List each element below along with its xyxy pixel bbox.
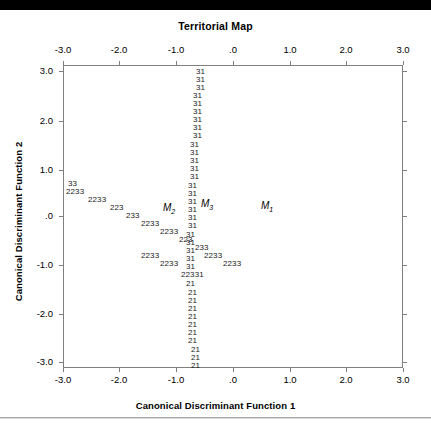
y-tick-left bbox=[59, 265, 63, 266]
territorial-symbol-row: 223 bbox=[110, 204, 124, 212]
y-tick-right bbox=[403, 265, 407, 266]
territorial-symbol-row: 2233 bbox=[223, 260, 241, 268]
y-tick-label: 1.0 bbox=[23, 164, 53, 175]
x-tick-label: -3.0 bbox=[43, 44, 83, 55]
x-tick-top bbox=[63, 61, 64, 65]
group-centroid-marker: M1 bbox=[261, 201, 273, 215]
x-tick-top bbox=[403, 61, 404, 65]
y-tick-label: 3.0 bbox=[23, 65, 53, 76]
territorial-symbol-row: 2233 bbox=[141, 252, 159, 260]
y-tick-right bbox=[403, 216, 407, 217]
x-tick-top bbox=[176, 61, 177, 65]
y-tick-label: -2.0 bbox=[23, 308, 53, 319]
x-tick-label: .0 bbox=[213, 374, 253, 385]
y-tick-left bbox=[59, 314, 63, 315]
y-tick-right bbox=[403, 362, 407, 363]
x-tick-bottom bbox=[63, 368, 64, 372]
x-tick-top bbox=[290, 61, 291, 65]
x-tick-bottom bbox=[176, 368, 177, 372]
x-tick-label: 3.0 bbox=[383, 44, 423, 55]
y-axis-title: Canonical Discriminant Function 2 bbox=[13, 122, 24, 322]
territorial-symbol-row: 31 bbox=[193, 132, 202, 140]
x-tick-label: -3.0 bbox=[43, 374, 83, 385]
x-tick-label: -1.0 bbox=[156, 44, 196, 55]
territorial-symbol-row: 2233 bbox=[160, 228, 178, 236]
territorial-symbol-row: 2233 bbox=[160, 260, 178, 268]
territorial-symbol-row: 22331 bbox=[181, 271, 204, 279]
bottom-rule-secondary bbox=[0, 418, 431, 419]
x-tick-label: -1.0 bbox=[156, 374, 196, 385]
y-tick-left bbox=[59, 71, 63, 72]
territorial-symbol-row: 2233 bbox=[88, 196, 106, 204]
territorial-map-figure: Territorial Map -3.0-3.0-2.0-2.0-1.0-1.0… bbox=[0, 0, 431, 434]
territorial-symbol-row: 21 bbox=[191, 362, 200, 370]
territorial-symbol-row: 2233 bbox=[141, 220, 159, 228]
x-tick-label: 1.0 bbox=[270, 44, 310, 55]
y-tick-label: -3.0 bbox=[23, 356, 53, 367]
x-tick-label: 2.0 bbox=[326, 44, 366, 55]
x-tick-label: -2.0 bbox=[99, 374, 139, 385]
y-tick-label: -1.0 bbox=[23, 259, 53, 270]
y-tick-right bbox=[403, 121, 407, 122]
group-centroid-marker: M3 bbox=[201, 199, 213, 213]
territorial-symbol-row: 31 bbox=[190, 173, 199, 181]
group-centroid-marker: M2 bbox=[163, 203, 175, 217]
x-tick-label: 2.0 bbox=[326, 374, 366, 385]
y-tick-right bbox=[403, 314, 407, 315]
chart-title: Territorial Map bbox=[0, 20, 431, 32]
centroid-group-number: 2 bbox=[171, 208, 175, 215]
x-tick-bottom bbox=[119, 368, 120, 372]
x-tick-bottom bbox=[233, 368, 234, 372]
x-tick-bottom bbox=[346, 368, 347, 372]
y-tick-right bbox=[403, 170, 407, 171]
x-axis-title: Canonical Discriminant Function 1 bbox=[0, 400, 431, 411]
territorial-symbol-row: 21 bbox=[186, 280, 195, 288]
y-tick-left bbox=[59, 170, 63, 171]
territorial-symbol-row: 2233 bbox=[204, 252, 222, 260]
territorial-symbol-row: 21 bbox=[188, 337, 197, 345]
x-tick-label: 1.0 bbox=[270, 374, 310, 385]
centroid-group-number: 1 bbox=[269, 206, 273, 213]
territorial-symbol-row: 2233 bbox=[66, 188, 84, 196]
top-black-bar bbox=[0, 0, 431, 10]
plot-area bbox=[63, 65, 403, 368]
territorial-symbol-row: 31 bbox=[188, 222, 197, 230]
x-tick-label: -2.0 bbox=[99, 44, 139, 55]
y-tick-label: .0 bbox=[23, 210, 53, 221]
territorial-symbol-row: 233 bbox=[126, 212, 140, 220]
x-tick-top bbox=[119, 61, 120, 65]
x-tick-top bbox=[233, 61, 234, 65]
y-tick-left bbox=[59, 121, 63, 122]
centroid-group-number: 3 bbox=[209, 204, 213, 211]
y-tick-left bbox=[59, 216, 63, 217]
x-tick-label: .0 bbox=[213, 44, 253, 55]
y-tick-right bbox=[403, 71, 407, 72]
x-tick-bottom bbox=[403, 368, 404, 372]
territorial-symbol-row: 223 bbox=[179, 236, 193, 244]
y-tick-left bbox=[59, 362, 63, 363]
x-tick-label: 3.0 bbox=[383, 374, 423, 385]
y-tick-label: 2.0 bbox=[23, 115, 53, 126]
x-tick-bottom bbox=[290, 368, 291, 372]
x-tick-top bbox=[346, 61, 347, 65]
